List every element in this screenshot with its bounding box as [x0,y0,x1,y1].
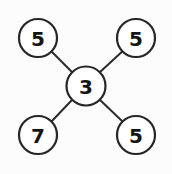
diagram-canvas: 5 5 7 5 3 [0,0,172,174]
node-center[interactable]: 3 [67,67,106,106]
edge-center-to-bottom-right [100,100,123,121]
node-bottom-right[interactable]: 5 [117,116,155,154]
node-label-top-right: 5 [129,27,143,51]
node-top-right[interactable]: 5 [117,19,155,57]
edge-center-to-top-left [52,52,72,72]
edge-center-to-bottom-left [52,100,72,121]
star-graph: 5 5 7 5 3 [0,0,172,174]
node-label-center: 3 [79,75,93,99]
edge-center-to-top-right [100,52,122,73]
node-top-left[interactable]: 5 [19,19,57,57]
node-label-bottom-right: 5 [129,124,143,148]
node-label-bottom-left: 7 [31,124,45,148]
node-label-top-left: 5 [31,27,45,51]
node-bottom-left[interactable]: 7 [19,116,57,154]
